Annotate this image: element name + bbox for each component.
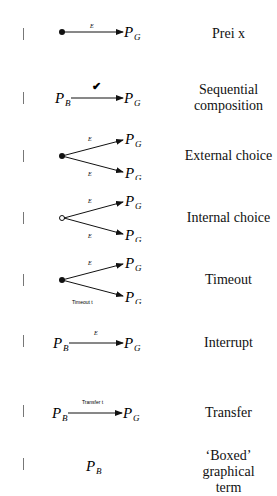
internal-node-icon <box>60 216 65 221</box>
svg-text:P: P <box>124 165 134 180</box>
svg-text:P: P <box>123 90 133 106</box>
target-term: P <box>123 24 133 40</box>
row-marker <box>23 405 24 417</box>
svg-text:E: E <box>93 330 98 336</box>
svg-text:G: G <box>135 173 142 180</box>
svg-text:G: G <box>135 201 142 211</box>
row-label: Timeout <box>180 272 277 288</box>
svg-text:Transfer t: Transfer t <box>82 399 104 405</box>
row-label: Interrupt <box>180 335 277 351</box>
svg-text:P: P <box>123 335 133 351</box>
svg-text:Timeout t: Timeout t <box>72 299 93 304</box>
row-label: Sequential composition <box>180 82 277 114</box>
svg-text:B: B <box>65 98 71 108</box>
svg-text:B: B <box>62 413 68 423</box>
svg-text:E: E <box>87 198 92 204</box>
row-marker <box>23 150 24 162</box>
arrow-label: E <box>89 23 94 29</box>
svg-text:P: P <box>124 193 134 209</box>
svg-text:P: P <box>85 458 95 474</box>
svg-text:G: G <box>133 413 140 423</box>
svg-text:E: E <box>87 260 92 266</box>
row-label: Prei x <box>180 26 277 42</box>
row-interrupt: P B E P G Interrupt <box>0 326 277 356</box>
svg-text:G: G <box>135 139 142 149</box>
prefix-diagram: E P G <box>40 22 160 46</box>
row-sequential-composition: P B ✔ P G Sequential composition <box>0 80 277 120</box>
svg-text:P: P <box>124 289 134 304</box>
row-label: Internal choice <box>180 210 277 226</box>
svg-text:P: P <box>54 90 64 106</box>
svg-text:G: G <box>135 235 142 242</box>
svg-text:B: B <box>63 343 69 353</box>
row-boxed-graphical-term: P B ‘Boxed’ graphical term <box>0 446 277 486</box>
row-prefix: E P G Prei x <box>0 22 277 46</box>
svg-text:G: G <box>135 263 142 273</box>
svg-text:E: E <box>87 136 92 142</box>
row-marker <box>23 458 24 470</box>
row-internal-choice: E E P G P G Internal choice <box>0 192 277 242</box>
boxed-term-diagram: P B <box>40 446 160 486</box>
svg-text:P: P <box>124 131 134 147</box>
svg-text:G: G <box>134 98 141 108</box>
svg-text:P: P <box>124 255 134 271</box>
row-marker <box>23 335 24 347</box>
row-marker <box>23 92 24 104</box>
svg-text:G: G <box>134 32 141 42</box>
svg-text:G: G <box>135 297 142 304</box>
svg-text:E: E <box>87 233 92 239</box>
tick-icon: ✔ <box>92 80 101 92</box>
internal-choice-diagram: E E P G P G <box>40 192 160 242</box>
row-marker <box>23 212 24 224</box>
svg-text:P: P <box>124 227 134 242</box>
transfer-diagram: P B Transfer t P G <box>40 396 160 426</box>
external-choice-diagram: E E P G P G <box>40 130 160 180</box>
svg-text:P: P <box>122 405 132 421</box>
row-label: External choice <box>180 148 277 164</box>
row-marker <box>23 28 24 40</box>
svg-text:P: P <box>52 335 62 351</box>
svg-text:E: E <box>87 171 92 177</box>
timeout-diagram: E Timeout t P G P G <box>40 254 160 304</box>
row-transfer: P B Transfer t P G Transfer <box>0 396 277 426</box>
svg-text:B: B <box>96 466 102 476</box>
svg-text:G: G <box>134 343 141 353</box>
row-external-choice: E E P G P G External choice <box>0 130 277 180</box>
svg-text:P: P <box>51 405 61 421</box>
row-marker <box>23 274 24 286</box>
row-timeout: E Timeout t P G P G Timeout <box>0 254 277 304</box>
interrupt-diagram: P B E P G <box>40 326 160 356</box>
row-label: ‘Boxed’ graphical term <box>180 448 277 496</box>
sequential-diagram: P B ✔ P G <box>40 80 160 120</box>
row-label: Transfer <box>180 405 277 421</box>
